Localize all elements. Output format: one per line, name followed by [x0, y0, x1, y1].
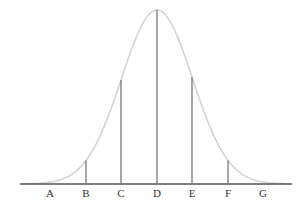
label-g: G [259, 187, 267, 199]
normal-distribution-diagram: ABCDEFG [0, 0, 307, 210]
label-e: E [189, 187, 196, 199]
sigma-lines [86, 10, 228, 184]
bell-curve [25, 10, 287, 184]
label-c: C [117, 187, 124, 199]
label-b: B [82, 187, 89, 199]
label-f: F [225, 187, 231, 199]
label-a: A [46, 187, 54, 199]
label-d: D [153, 187, 161, 199]
axis-labels: ABCDEFG [46, 187, 267, 199]
bell-curve-figure: ABCDEFG [0, 0, 307, 210]
